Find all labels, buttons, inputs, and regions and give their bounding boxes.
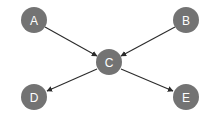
edge-c-to-d[interactable]	[47, 69, 97, 91]
node-c-label: C	[105, 56, 114, 70]
node-b[interactable]: B	[173, 7, 199, 33]
node-b-label: B	[182, 14, 190, 28]
diagram-canvas: A B C D E	[0, 0, 213, 120]
node-e-label: E	[182, 91, 190, 105]
node-e[interactable]: E	[173, 84, 199, 110]
edge-c-to-e[interactable]	[121, 69, 173, 91]
node-d[interactable]: D	[21, 84, 47, 110]
node-a[interactable]: A	[21, 7, 47, 33]
edge-a-to-c[interactable]	[45, 27, 97, 56]
directed-graph: A B C D E	[0, 0, 213, 120]
node-d-label: D	[30, 91, 39, 105]
edge-b-to-c[interactable]	[121, 27, 175, 56]
node-group: A B C D E	[21, 7, 199, 110]
node-a-label: A	[30, 14, 38, 28]
node-c[interactable]: C	[96, 49, 122, 75]
